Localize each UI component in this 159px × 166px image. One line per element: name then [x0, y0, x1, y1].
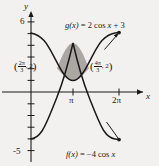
point-left-x-numerator: 2π	[18, 60, 26, 67]
point-left-x-denominator: 3	[18, 67, 26, 73]
y-tick-label-minus5: -5	[13, 146, 21, 156]
point-right-x-numerator: 4π	[94, 60, 102, 67]
curve-g-label-const: + 3	[111, 20, 124, 30]
y-axis-label: y	[24, 1, 28, 11]
x-tick-label-pi: π	[69, 95, 74, 105]
shaded-area-between-curves	[57, 43, 89, 81]
curve-f-label-var: x	[111, 149, 115, 159]
curve-f-label-fn: f(x)	[66, 149, 78, 159]
curve-f-endpoint-dot	[117, 138, 121, 142]
y-tick-label-6: 6	[20, 16, 25, 26]
y-axis-arrowhead	[28, 11, 33, 17]
x-axis-label: x	[146, 91, 150, 101]
curve-g-label: g(x) = 2 cos x + 3	[65, 20, 125, 30]
curve-g-label-eq: = 2 cos	[79, 20, 108, 30]
curve-f-label-eq: = −4 cos	[78, 149, 112, 159]
point-left-close-paren: )	[33, 60, 37, 72]
figure-canvas: y x 6 -5 π 2π g(x) = 2 cos x + 3 f(x) = …	[0, 0, 159, 166]
point-right-close-paren: )	[109, 60, 113, 72]
point-left-x-fraction: 2π3	[18, 60, 26, 73]
x-axis-arrowhead	[137, 89, 143, 94]
point-label-right-intersection: (4π3, 2)	[90, 60, 112, 73]
point-right-x-denominator: 3	[94, 67, 102, 73]
point-right-x-fraction: 4π3	[94, 60, 102, 73]
curve-g-label-fn: g(x)	[65, 20, 79, 30]
point-label-left-intersection: (2π3, 2)	[14, 60, 36, 73]
curve-f-label: f(x) = −4 cos x	[66, 149, 115, 159]
x-tick-label-2pi: 2π	[112, 95, 121, 105]
